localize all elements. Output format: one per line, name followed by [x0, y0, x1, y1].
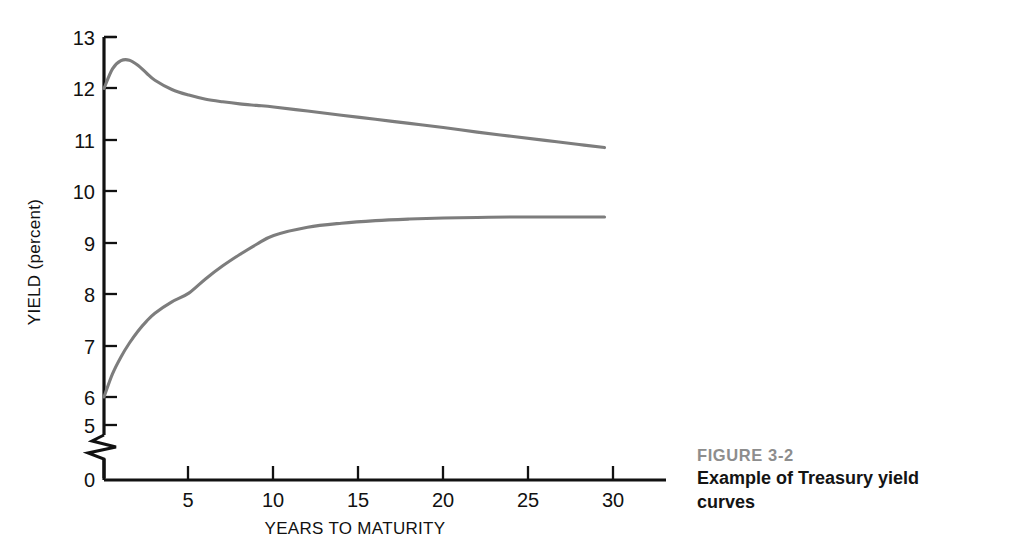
curve-inverted-yield	[104, 60, 605, 148]
x-tick-label-25: 25	[517, 489, 539, 511]
y-tick-label-10: 10	[73, 181, 95, 203]
y-axis-tick-labels: 13 12 11 10 9 8 7 6 5 0	[73, 27, 95, 491]
y-tick-label-11: 11	[74, 130, 95, 152]
figure-container: 13 12 11 10 9 8 7 6 5 0 YIELD (percent) …	[0, 0, 1023, 557]
figure-number-label: FIGURE 3-2	[697, 444, 997, 466]
curve-normal-yield	[104, 217, 605, 397]
y-tick-label-7: 7	[84, 336, 95, 358]
x-tick-label-20: 20	[432, 489, 454, 511]
y-tick-label-13: 13	[73, 27, 95, 49]
y-tick-label-12: 12	[73, 78, 95, 100]
x-tick-label-10: 10	[262, 489, 284, 511]
figure-title-label: Example of Treasury yield curves	[697, 466, 949, 514]
y-tick-label-0: 0	[84, 469, 95, 491]
y-axis-title: YIELD (percent)	[25, 199, 44, 325]
x-axis-tick-labels: 5 10 15 20 25 30	[182, 489, 624, 511]
curve-group	[104, 60, 605, 397]
x-axis-title: YEARS TO MATURITY	[265, 519, 446, 538]
figure-caption: FIGURE 3-2 Example of Treasury yield cur…	[697, 444, 997, 514]
y-tick-label-8: 8	[84, 284, 95, 306]
x-tick-label-30: 30	[602, 489, 624, 511]
x-tick-label-15: 15	[347, 489, 369, 511]
x-axis-ticks	[188, 466, 613, 480]
y-tick-label-6: 6	[84, 387, 95, 409]
yield-curve-chart: 13 12 11 10 9 8 7 6 5 0 YIELD (percent) …	[0, 0, 690, 557]
y-tick-label-5: 5	[84, 415, 95, 437]
y-tick-label-9: 9	[84, 233, 95, 255]
x-tick-label-5: 5	[182, 489, 193, 511]
